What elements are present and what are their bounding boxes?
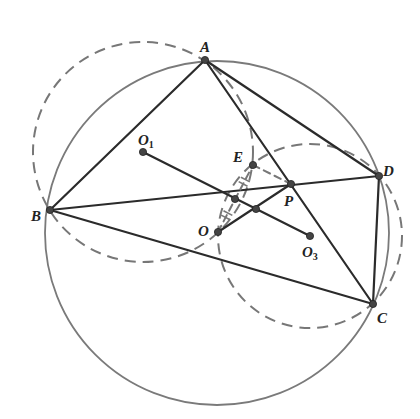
segment-DC (373, 176, 379, 304)
point-C (369, 300, 376, 307)
label-B: B (31, 209, 41, 224)
point-E (249, 161, 256, 168)
label-C: C (377, 311, 387, 326)
segment-BD (50, 176, 379, 210)
point-P (287, 180, 294, 187)
circles-layer (33, 42, 402, 405)
point-D (375, 172, 382, 179)
geometry-figure (0, 0, 420, 419)
point-B (46, 206, 53, 213)
label-A: A (200, 40, 210, 55)
label-O1: O1 (138, 133, 154, 150)
point-O3 (306, 232, 313, 239)
tick-mark (223, 211, 232, 216)
label-O3: O3 (302, 245, 318, 262)
point-A (201, 56, 208, 63)
label-E: E (233, 150, 243, 165)
segments-layer (50, 60, 379, 304)
point-O (214, 228, 221, 235)
segment-AB (50, 60, 205, 210)
point-Q (252, 205, 259, 212)
segment-BC (50, 210, 373, 304)
label-P: P (284, 194, 293, 209)
points-layer (46, 56, 382, 307)
label-D: D (383, 164, 394, 179)
point-M (231, 195, 238, 202)
label-O: O (198, 224, 209, 239)
segment-EP (253, 165, 291, 184)
